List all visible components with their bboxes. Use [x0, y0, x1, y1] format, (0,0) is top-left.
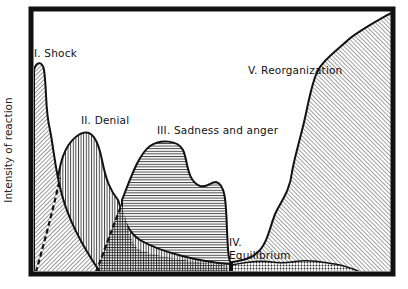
label-sadness-anger: III. Sadness and anger: [157, 124, 278, 136]
label-equilibrium-line2: Equilibrium: [229, 249, 291, 262]
grief-stages-chart: [0, 0, 408, 289]
label-equilibrium: IV. Equilibrium: [229, 236, 291, 262]
y-axis-label: Intensity of reaction: [2, 90, 16, 210]
label-reorganization: V. Reorganization: [248, 64, 342, 76]
area-reorganization: [232, 12, 393, 272]
label-denial: II. Denial: [81, 114, 129, 126]
label-shock: I. Shock: [34, 47, 77, 59]
label-equilibrium-line1: IV.: [229, 236, 291, 249]
